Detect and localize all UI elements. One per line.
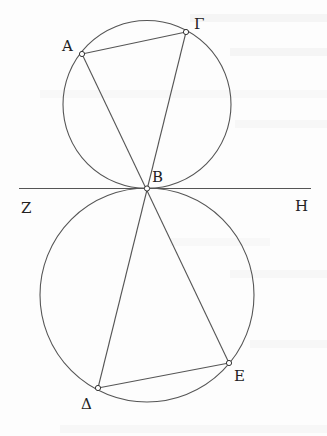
upper-circle xyxy=(63,21,231,189)
point-A xyxy=(79,51,84,56)
point-Delta xyxy=(95,385,100,390)
segment-A-E xyxy=(82,54,229,363)
label-E: E xyxy=(234,367,245,385)
label-Gamma: Γ xyxy=(194,15,204,33)
point-E xyxy=(226,360,231,365)
geometry-figure: A Γ B Δ E Z H xyxy=(0,0,327,436)
segment-Gamma-Delta xyxy=(98,32,186,388)
background-bleed-text xyxy=(40,14,327,433)
label-Delta: Δ xyxy=(81,395,92,413)
point-B xyxy=(144,186,149,191)
segments xyxy=(82,32,229,388)
label-H: H xyxy=(295,197,308,215)
segment-Delta-E xyxy=(98,363,229,388)
point-Gamma xyxy=(183,29,188,34)
label-Z: Z xyxy=(21,199,31,217)
segment-A-Gamma xyxy=(82,32,186,54)
lower-circle xyxy=(40,188,254,402)
label-B: B xyxy=(152,168,163,186)
figure-svg: A Γ B Δ E Z H xyxy=(0,0,327,436)
label-A: A xyxy=(61,37,73,55)
points xyxy=(79,29,231,390)
